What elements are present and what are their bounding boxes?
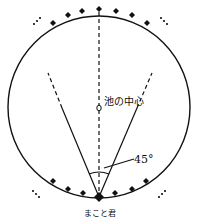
ellipsis-bottom-right <box>158 190 166 198</box>
pond-diagram <box>0 0 197 220</box>
marker-diamond <box>144 20 150 26</box>
marker-diamond <box>65 12 71 18</box>
marker-diamond <box>96 6 102 12</box>
person-marker <box>94 192 104 202</box>
marker-diamond <box>79 8 85 14</box>
marker-diamond <box>50 178 56 184</box>
angle-leader-line <box>104 159 134 168</box>
marker-diamond <box>129 12 135 18</box>
ellipsis-bottom-left <box>32 190 40 198</box>
ellipsis-top-right <box>160 17 168 25</box>
right-sight-line <box>99 108 137 197</box>
pond-center-label: 池の中心 <box>104 93 144 108</box>
ellipsis-top-left <box>33 17 41 25</box>
marker-diamond <box>113 8 119 14</box>
marker-diamond <box>112 190 118 196</box>
marker-diamond <box>50 20 56 26</box>
marker-diamond <box>80 190 86 196</box>
pond-center-point <box>97 105 101 111</box>
left-sight-line <box>62 108 99 197</box>
person-label: まこと君 <box>84 207 116 218</box>
angle-label: 45° <box>134 153 154 166</box>
left-sight-dashed-extension <box>48 73 62 108</box>
